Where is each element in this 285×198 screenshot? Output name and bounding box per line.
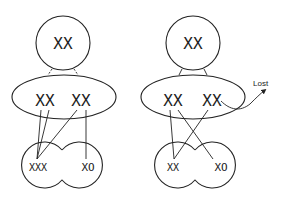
right-top-cell-chromosomes: XX [183, 34, 203, 53]
left-panel: XX XX XX XXX XO [12, 16, 116, 188]
right-segregation-line-2 [178, 110, 213, 159]
lost-label: Lost [253, 79, 269, 88]
left-connector-b [74, 69, 78, 75]
right-middle-pair-2: XX [202, 91, 222, 110]
right-daughter-right-chromosomes: XO [214, 161, 227, 174]
left-daughter-left-chromosomes: XXX [29, 162, 47, 173]
left-daughter-right-chromosomes: XO [81, 161, 94, 174]
left-middle-pair-2: XX [71, 91, 91, 110]
right-segregation-line-3 [174, 110, 208, 159]
right-connector-a [179, 69, 182, 75]
left-connector-a [48, 69, 52, 75]
left-middle-pair-1: XX [35, 91, 55, 110]
left-top-cell-chromosomes: XX [53, 34, 73, 53]
right-middle-cell [141, 75, 245, 119]
right-panel: XX XX XX Lost XX XO [141, 16, 269, 188]
left-middle-cell [12, 75, 116, 119]
nondisjunction-diagram: XX XX XX XXX XO XX XX XX Lost XX XO [0, 0, 285, 198]
right-connector-b [204, 69, 207, 75]
right-middle-pair-1: XX [163, 91, 183, 110]
right-daughter-left-chromosomes: XX [167, 162, 179, 173]
lost-arrow [221, 90, 265, 109]
